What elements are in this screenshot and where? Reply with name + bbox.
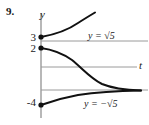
y-axis-label: y: [40, 9, 45, 20]
initial-point-ym4: [38, 102, 43, 107]
t-axis-label: t: [139, 60, 142, 71]
figure-container: 9. y t 3 2 -4 y = √5 y = −√5: [0, 0, 149, 125]
problem-number: 9.: [6, 6, 14, 17]
upper-equilibrium-label: y = √5: [88, 31, 115, 41]
initial-point-y3: [38, 34, 43, 39]
lower-equilibrium-label: y = −√5: [84, 99, 117, 109]
y-tick-label-minus-4: -4: [16, 97, 36, 108]
curve-through-y3: [41, 13, 95, 38]
initial-point-y2: [38, 45, 43, 50]
y-tick-label-2: 2: [22, 43, 36, 54]
curve-through-y2: [41, 48, 141, 91]
